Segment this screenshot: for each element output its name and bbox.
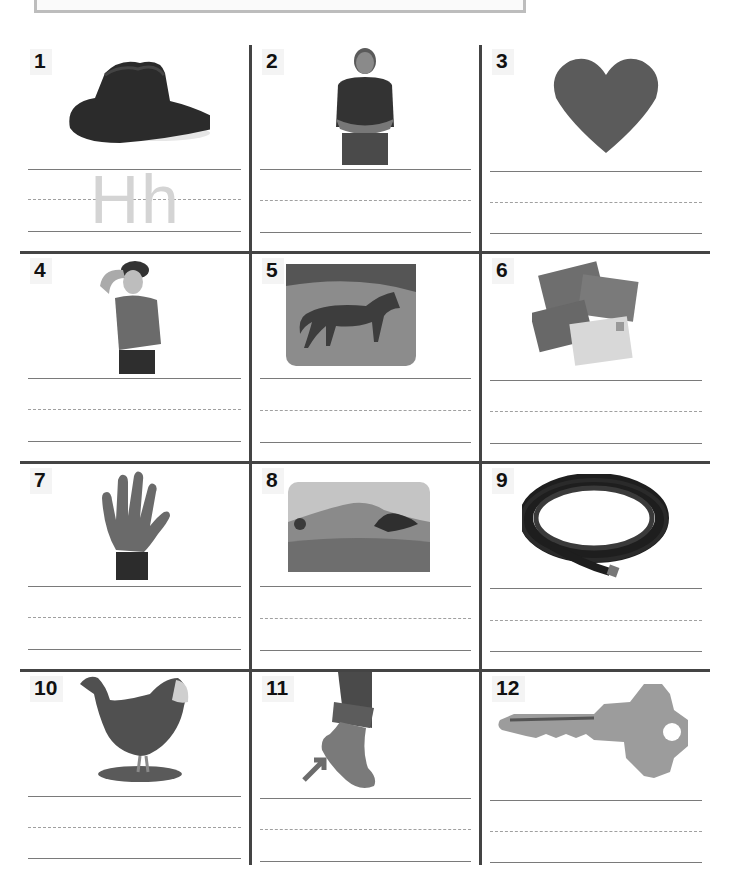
writing-line-base — [490, 651, 702, 652]
heart-icon — [550, 53, 662, 158]
writing-line-base — [260, 861, 471, 862]
item-number: 9 — [492, 468, 514, 494]
writing-line-mid — [490, 831, 702, 832]
item-number: 10 — [30, 676, 63, 702]
writing-line-base — [490, 862, 702, 863]
item-cell-8: 8 — [252, 464, 479, 669]
writing-line-mid — [260, 829, 471, 830]
writing-line-mid — [28, 827, 241, 828]
hot-boy-icon — [95, 258, 175, 376]
writing-line-top — [260, 586, 471, 587]
key-icon — [494, 680, 694, 780]
hen-icon — [80, 672, 195, 784]
writing-line-base — [490, 443, 702, 444]
item-number: 1 — [30, 49, 52, 75]
writing-line-base — [28, 858, 241, 859]
writing-line-mid — [28, 617, 241, 618]
writing-line-base — [260, 442, 471, 443]
writing-line-top — [260, 378, 471, 379]
writing-line-mid — [28, 409, 241, 410]
item-cell-10: 10 — [20, 672, 249, 868]
item-number: 8 — [262, 468, 284, 494]
hill-icon — [288, 482, 430, 572]
instruction-banner — [34, 0, 526, 13]
writing-line-top — [260, 798, 471, 799]
writing-line-top — [490, 588, 702, 589]
writing-line-base — [490, 233, 702, 234]
writing-line-mid — [490, 411, 702, 412]
item-number: 7 — [30, 468, 52, 494]
item-number: 5 — [262, 258, 284, 284]
item-cell-4: 4 — [20, 254, 249, 461]
writing-line-base — [28, 649, 241, 650]
writing-line-mid — [260, 200, 471, 201]
writing-line-base — [260, 232, 471, 233]
writing-line-top — [260, 169, 471, 170]
item-cell-1: 1 Hh — [20, 45, 249, 251]
writing-line-top — [28, 378, 241, 379]
item-cell-5: 5 — [252, 254, 479, 461]
letters-icon — [532, 258, 647, 366]
horse-icon — [286, 264, 416, 366]
heel-icon — [300, 672, 410, 794]
writing-line-top — [28, 796, 241, 797]
writing-line-base — [28, 441, 241, 442]
writing-line-top — [490, 380, 702, 381]
writing-line-top — [28, 586, 241, 587]
writing-line-top — [490, 171, 702, 172]
item-cell-6: 6 — [482, 254, 710, 461]
item-number: 4 — [30, 258, 52, 284]
writing-line-mid — [490, 202, 702, 203]
cowboy-hat-icon — [60, 53, 210, 148]
hand-icon — [96, 470, 170, 582]
item-cell-12: 12 — [482, 672, 710, 868]
writing-line-top — [490, 800, 702, 801]
item-cell-2: 2 — [252, 45, 479, 251]
item-number: 3 — [492, 49, 514, 75]
item-cell-3: 3 — [482, 45, 710, 251]
writing-line-mid — [490, 620, 702, 621]
writing-line-mid — [260, 618, 471, 619]
item-number: 2 — [262, 49, 284, 75]
item-cell-11: 11 — [252, 672, 479, 868]
trace-letters: Hh — [90, 165, 181, 233]
writing-line-mid — [260, 410, 471, 411]
item-cell-9: 9 — [482, 464, 710, 669]
item-number: 11 — [262, 676, 294, 702]
item-number: 6 — [492, 258, 514, 284]
writing-line-base — [260, 650, 471, 651]
item-cell-7: 7 — [20, 464, 249, 669]
hose-icon — [522, 474, 672, 584]
man-icon — [330, 47, 400, 167]
